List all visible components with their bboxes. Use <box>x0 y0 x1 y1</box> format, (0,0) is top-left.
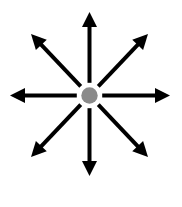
center-node <box>81 87 97 103</box>
radial-arrows-canvas <box>0 0 182 207</box>
radial-arrows-figure <box>0 0 182 207</box>
